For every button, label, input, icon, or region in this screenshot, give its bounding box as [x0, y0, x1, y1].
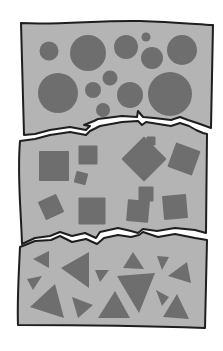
panel-triangles	[18, 232, 207, 328]
square-shape	[39, 151, 69, 181]
square-shape	[162, 194, 188, 220]
square-shape	[126, 199, 150, 223]
torn-panels-illustration	[0, 0, 223, 351]
circle-shape	[40, 42, 59, 61]
circle-shape	[141, 47, 163, 69]
circle-shape	[148, 72, 192, 116]
panel-squares	[19, 121, 207, 244]
square-shape	[147, 137, 156, 146]
circle-shape	[167, 35, 197, 65]
square-shape	[79, 146, 98, 165]
circle-shape	[38, 73, 78, 113]
illustration-canvas	[0, 0, 223, 351]
panel-squares-background	[19, 121, 207, 244]
circle-shape	[114, 35, 138, 59]
circle-shape	[85, 82, 101, 98]
circle-shape	[70, 35, 106, 71]
circle-shape	[142, 33, 151, 42]
circle-shape	[103, 71, 118, 86]
panel-circles	[21, 21, 213, 135]
square-shape	[139, 187, 154, 202]
square-shape	[79, 198, 106, 225]
circle-shape	[117, 82, 143, 108]
circle-shape	[96, 103, 110, 117]
